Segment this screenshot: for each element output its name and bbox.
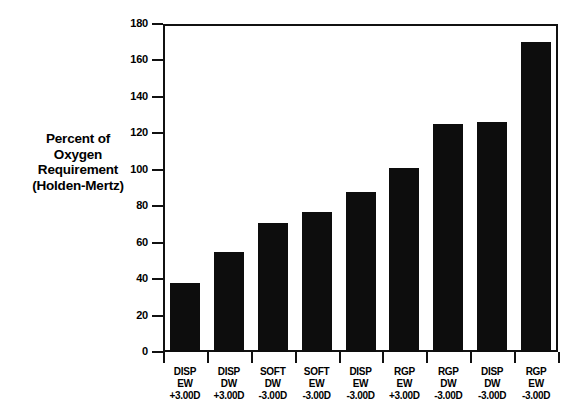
bar [521, 42, 551, 352]
y-axis-tick [152, 315, 163, 317]
x-axis-tick [558, 352, 560, 363]
x-axis-tick [470, 352, 472, 363]
y-axis-tick-label: 140 [30, 91, 148, 102]
y-axis-tick-label: 80 [30, 200, 148, 211]
y-axis-tick-label: 40 [30, 273, 148, 284]
x-axis-tick [251, 352, 253, 363]
y-axis-tick-label: 160 [30, 54, 148, 65]
x-axis-tick [295, 352, 297, 363]
x-axis-tick-label-line-3: -3.00D [510, 390, 562, 402]
y-axis-tick [152, 96, 163, 98]
y-axis-tick [152, 242, 163, 244]
x-axis-tick [207, 352, 209, 363]
x-axis-tick-label: RGPEW-3.00D [510, 366, 562, 402]
y-axis-tick-label: 20 [30, 310, 148, 321]
bar [433, 124, 463, 352]
y-axis-tick-label: 60 [30, 237, 148, 248]
x-axis-tick-label-line-1: RGP [510, 366, 562, 378]
bar [477, 122, 507, 352]
x-axis-tick [339, 352, 341, 363]
bar [214, 252, 244, 352]
bar-chart-figure: Percent of Oxygen Requirement (Holden-Me… [0, 0, 583, 420]
y-axis-tick-label: 0 [30, 346, 148, 357]
bar [170, 283, 200, 352]
x-axis-tick [382, 352, 384, 363]
x-axis-tick [163, 352, 165, 363]
y-axis-tick-labels: 020406080100120140160180 [26, 0, 148, 420]
y-axis-tick [152, 169, 163, 171]
bars-container [163, 24, 558, 352]
x-axis-tick-labels: DISPEW+3.00DDISPDW+3.00DSOFTDW-3.00DSOFT… [163, 366, 558, 416]
bar [346, 192, 376, 352]
y-axis-tick-label: 100 [30, 164, 148, 175]
y-axis-tick [152, 59, 163, 61]
bar [258, 223, 288, 352]
y-axis-tick [152, 23, 163, 25]
x-axis-tick-label-line-2: EW [510, 378, 562, 390]
bar [389, 168, 419, 352]
y-axis-tick [152, 278, 163, 280]
x-axis-tick [426, 352, 428, 363]
y-axis-tick-label: 180 [30, 18, 148, 29]
y-axis-tick-label: 120 [30, 127, 148, 138]
bar [302, 212, 332, 352]
y-axis-tick [152, 351, 163, 353]
y-axis-tick [152, 205, 163, 207]
y-axis-tick [152, 132, 163, 134]
x-axis-tick [514, 352, 516, 363]
